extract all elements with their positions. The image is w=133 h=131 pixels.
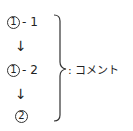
circled-number: 1 — [7, 64, 20, 77]
circled-number: 2 — [15, 110, 28, 123]
circled-number: 1 — [7, 16, 20, 29]
step-2: 2 — [15, 109, 28, 123]
comment-label: : コメント — [68, 64, 119, 78]
curly-brace-icon — [52, 14, 68, 122]
step-1-2: 1 - 2 — [7, 63, 38, 77]
step-suffix: - 2 — [22, 63, 38, 77]
down-arrow-icon: ↓ — [15, 39, 27, 53]
down-arrow-icon: ↓ — [15, 87, 27, 101]
step-suffix: - 1 — [22, 15, 38, 29]
step-1-1: 1 - 1 — [7, 15, 38, 29]
